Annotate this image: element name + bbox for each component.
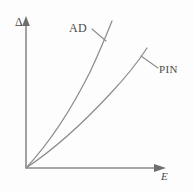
curve-ad [26,21,112,168]
leader-line-pin [141,56,158,68]
x-axis-label: E [161,171,168,182]
plot-canvas [0,0,194,192]
arrow-up-icon [22,16,30,26]
curve-pin [26,48,147,168]
series-label-pin: PIN [159,64,178,75]
figure-container: Δ E AD PIN [0,0,194,192]
leader-line-ad [92,29,106,41]
series-label-ad: AD [69,22,87,34]
y-axis-label: Δ [15,16,23,28]
